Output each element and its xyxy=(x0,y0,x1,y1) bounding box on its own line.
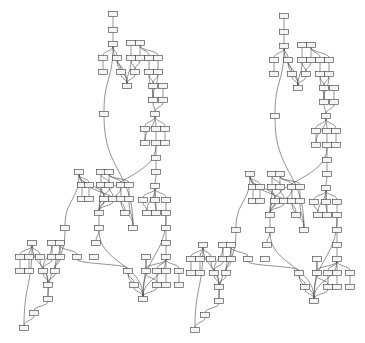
graph-node xyxy=(127,41,136,46)
graph-node xyxy=(323,158,332,163)
graph-edge xyxy=(32,246,48,283)
graph-node xyxy=(207,257,216,262)
graph-node xyxy=(145,70,154,75)
graph-node xyxy=(196,257,205,262)
graph-edge xyxy=(155,117,165,127)
graph-node xyxy=(20,326,29,331)
graph-node xyxy=(325,72,334,77)
graph-node xyxy=(298,58,307,63)
graph-edge xyxy=(153,103,155,112)
graph-node xyxy=(100,112,109,117)
graph-node xyxy=(162,283,171,288)
graph-node xyxy=(97,170,106,175)
graph-node xyxy=(280,14,289,19)
graph-node xyxy=(246,172,255,177)
graph-edge xyxy=(155,103,163,112)
graph-panel-right xyxy=(187,14,355,333)
graph-edge xyxy=(135,61,140,70)
graph-edge xyxy=(226,262,231,271)
graph-node xyxy=(161,127,170,132)
graph-node xyxy=(141,141,150,146)
graph-node xyxy=(270,58,279,63)
graph-node xyxy=(136,41,145,46)
graph-node xyxy=(117,70,126,75)
graph-node xyxy=(56,255,65,260)
graph-node xyxy=(129,226,138,231)
graph-node xyxy=(201,313,210,318)
graph-edge xyxy=(113,47,127,84)
graph-node xyxy=(333,200,342,205)
graph-node xyxy=(44,297,53,302)
graph-node xyxy=(152,156,161,161)
graph-node xyxy=(25,255,34,260)
graph-edge xyxy=(311,48,329,58)
graph-node xyxy=(268,172,277,177)
graph-node xyxy=(276,172,285,177)
graph-node xyxy=(16,269,25,274)
graph-edge xyxy=(101,175,109,183)
graph-edge xyxy=(314,262,337,299)
graph-node xyxy=(36,255,45,260)
graph-node xyxy=(109,197,118,202)
graph-node xyxy=(162,255,171,260)
graph-node xyxy=(270,72,279,77)
graph-edge xyxy=(146,274,157,283)
graph-node xyxy=(48,255,57,260)
graph-edge xyxy=(143,203,147,211)
graph-node xyxy=(227,257,236,262)
graph-node xyxy=(307,43,316,48)
graph-node xyxy=(280,30,289,35)
graph-edge xyxy=(143,260,166,297)
graph-node xyxy=(51,269,60,274)
graph-node xyxy=(152,170,161,175)
graph-canvas xyxy=(0,0,365,343)
graph-node xyxy=(30,311,39,316)
graph-node xyxy=(175,269,184,274)
graph-node xyxy=(131,70,140,75)
graph-edge xyxy=(324,77,329,86)
graph-edge xyxy=(267,233,270,243)
graph-node xyxy=(333,213,342,218)
graph-node xyxy=(284,58,293,63)
graph-node xyxy=(95,226,104,231)
graph-node xyxy=(130,283,139,288)
graph-node xyxy=(90,255,99,260)
graph-node xyxy=(346,271,355,276)
graph-node xyxy=(325,58,334,63)
graph-node xyxy=(296,199,305,204)
graph-edge xyxy=(127,75,135,84)
graph-node xyxy=(276,185,285,190)
graph-edge xyxy=(326,191,337,200)
graph-node xyxy=(139,297,148,302)
graph-node xyxy=(162,198,171,203)
graph-node xyxy=(161,141,170,146)
graph-edge xyxy=(155,175,156,184)
graph-edge xyxy=(34,302,48,311)
graph-edge xyxy=(153,75,158,84)
graph-edge xyxy=(324,105,326,114)
graph-edge xyxy=(143,288,157,297)
graph-node xyxy=(324,285,333,290)
graph-node xyxy=(151,198,160,203)
graph-node xyxy=(117,197,126,202)
graph-node xyxy=(152,127,161,132)
graph-node xyxy=(227,243,236,248)
graph-edge xyxy=(155,189,166,198)
graph-node xyxy=(159,84,168,89)
graph-node xyxy=(261,257,270,262)
graph-node xyxy=(162,211,171,216)
graph-node xyxy=(162,241,171,246)
graph-edge xyxy=(131,61,135,70)
graph-node xyxy=(191,328,200,333)
graph-node xyxy=(149,98,158,103)
graph-node xyxy=(301,285,310,290)
graph-node xyxy=(312,143,321,148)
graph-node xyxy=(333,243,342,248)
graph-node xyxy=(256,199,265,204)
graph-edge xyxy=(302,63,306,72)
graph-node xyxy=(215,285,224,290)
graph-edge xyxy=(77,260,128,269)
graph-node xyxy=(153,269,162,274)
graph-edge xyxy=(205,304,219,313)
graph-node xyxy=(127,56,136,61)
